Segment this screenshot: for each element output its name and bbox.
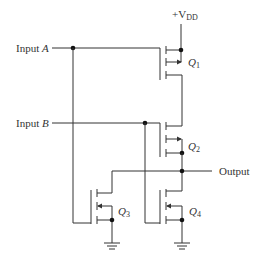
q4-label: Q4 [189, 205, 201, 219]
vdd-label: +VDD [172, 8, 198, 22]
input-b-label: Input B [16, 117, 49, 129]
input-a-label: Input A [16, 42, 49, 54]
transistor-q2: Q2 [166, 122, 200, 157]
q1-label: Q1 [188, 56, 200, 70]
circuit-schematic: +VDD Input A Q1 Input B Q2 [0, 0, 262, 261]
ground-icon [104, 243, 120, 249]
ground-icon [174, 243, 190, 249]
transistor-q3: Q3 [91, 189, 130, 243]
output-label: Output [219, 165, 250, 177]
q3-label: Q3 [118, 205, 130, 219]
q2-label: Q2 [188, 140, 200, 154]
output-junction [180, 169, 185, 174]
transistor-q4: Q4 [160, 189, 201, 243]
transistor-q1: Q1 [166, 46, 200, 79]
